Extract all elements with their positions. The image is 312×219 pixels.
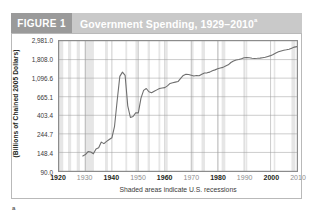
x-tick-label: 1990 (237, 174, 253, 181)
recession-band (59, 41, 63, 171)
recession-band (166, 41, 168, 171)
footnote-marker: a (12, 205, 15, 211)
recession-band (245, 41, 247, 171)
x-tick-label: 2000 (264, 174, 280, 181)
recession-band (125, 41, 127, 171)
figure-container: FIGURE 1 Government Spending, 1929–2010a… (0, 0, 312, 219)
spending-line (83, 47, 297, 156)
x-tick-label: 1980 (210, 174, 226, 181)
x-tick-label: 2010 (290, 174, 306, 181)
recession-band (222, 41, 226, 171)
plot-area (58, 40, 298, 172)
figure-title: Government Spending, 1929–2010 (80, 18, 254, 30)
recession-band (274, 41, 276, 171)
figure-title-footnote-superscript: a (254, 17, 257, 23)
recession-band (291, 41, 295, 171)
y-axis-title-label: (Billions of Chained 2005 Dollars) (12, 49, 19, 157)
y-axis-tick-labels: 2,981.01,808.01,096.6665.1403.4244.7148.… (19, 40, 55, 172)
recession-band (148, 41, 150, 171)
recession-band (202, 41, 205, 171)
figure-header: FIGURE 1 Government Spending, 1929–2010a (11, 13, 302, 33)
plot-svg (59, 41, 297, 171)
recession-band (135, 41, 137, 171)
x-tick-label: 1950 (130, 174, 146, 181)
x-axis-tick-labels: 1920193019401950196019701980199020002010 (58, 174, 298, 185)
recession-band (68, 41, 71, 171)
recession-band (158, 41, 160, 171)
y-tick-label: 244.7 (37, 131, 53, 138)
recession-band (77, 41, 80, 171)
x-tick-label: 1970 (184, 174, 200, 181)
plot-caption: Shaded areas indicate U.S. recessions (58, 186, 298, 193)
figure-number-label: FIGURE 1 (17, 18, 66, 29)
y-tick-label: 2,981.0 (32, 37, 53, 44)
figure-title-band: Government Spending, 1929–2010a (72, 13, 302, 33)
x-tick-label: 1930 (77, 174, 93, 181)
y-tick-label: 1,096.6 (32, 74, 53, 81)
y-tick-label: 1,808.0 (32, 55, 53, 62)
recession-band (105, 41, 108, 171)
x-tick-label: 1940 (104, 174, 120, 181)
y-tick-label: 403.4 (37, 112, 53, 119)
figure-title-wrapper: Government Spending, 1929–2010a (80, 14, 257, 32)
figure-number-badge: FIGURE 1 (11, 13, 72, 33)
x-tick-label: 1920 (50, 174, 66, 181)
x-tick-label: 1960 (157, 174, 173, 181)
y-tick-label: 148.4 (37, 150, 53, 157)
y-tick-label: 665.1 (37, 93, 53, 100)
